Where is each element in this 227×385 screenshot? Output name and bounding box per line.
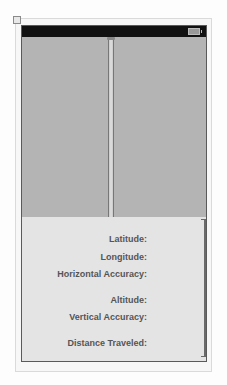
latitude-label: Latitude: [109, 234, 147, 244]
resize-handle-icon[interactable] [13, 16, 21, 24]
device-view-controller: Latitude: Longitude: Horizontal Accuracy… [21, 25, 207, 362]
battery-icon [188, 28, 200, 35]
map-view[interactable] [22, 37, 206, 217]
status-bar [22, 26, 206, 37]
vertical-accuracy-label: Vertical Accuracy: [69, 312, 147, 322]
splitter-top-cap-icon [107, 37, 115, 40]
horizontal-accuracy-label: Horizontal Accuracy: [57, 269, 147, 279]
location-info-panel: Latitude: Longitude: Horizontal Accuracy… [22, 217, 206, 361]
longitude-label: Longitude: [101, 252, 148, 262]
vertical-splitter-handle[interactable] [108, 38, 114, 220]
distance-traveled-label: Distance Traveled: [67, 338, 147, 348]
altitude-label: Altitude: [111, 295, 148, 305]
vertical-constraint-bar[interactable] [204, 219, 206, 357]
